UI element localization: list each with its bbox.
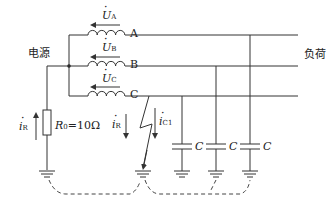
voltage-b-label: UB: [102, 42, 116, 53]
phase-c-label: C: [130, 89, 138, 100]
capacitor-1-label: C: [195, 141, 203, 152]
earth-return-right: [145, 180, 250, 194]
circuit-diagram: [0, 0, 334, 211]
capacitor-3-label: C: [263, 141, 271, 152]
resistor-label: R0=10Ω: [55, 120, 100, 131]
phase-c-line: [69, 87, 298, 96]
voltage-a-label: UA: [102, 10, 116, 21]
earth-return-mid: [210, 180, 216, 192]
current-ir-fault-label: iR: [112, 119, 121, 130]
load-label: 负荷: [304, 49, 326, 60]
current-ir-left-label: iR: [19, 121, 28, 132]
capacitor-2-label: C: [229, 141, 237, 152]
phase-b-label: B: [130, 59, 138, 70]
source-label: 电源: [28, 48, 50, 59]
capacitor-branch-3: [240, 35, 260, 177]
phase-a-label: A: [130, 28, 138, 39]
capacitor-branch-2: [206, 66, 226, 177]
current-ic1-label: iC1: [159, 116, 172, 127]
fault-branch: [126, 96, 155, 177]
capacitor-branch-1: [172, 96, 192, 177]
voltage-c-label: UC: [102, 73, 117, 84]
earth-return-left: [49, 180, 140, 194]
resistor: [43, 110, 51, 135]
